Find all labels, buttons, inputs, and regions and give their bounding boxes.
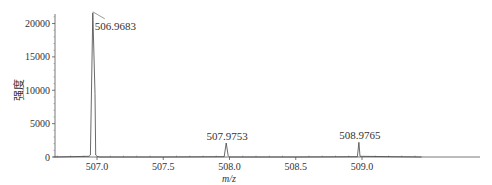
x-tick-label: 508.5 <box>285 161 308 172</box>
y-ticks: 05000100001500020000 <box>25 17 55 163</box>
peak-leader-line <box>93 12 105 19</box>
chart-svg: 05000100001500020000 507.0507.5508.0508.… <box>0 0 492 185</box>
x-tick-label: 509.0 <box>351 161 374 172</box>
y-tick-label: 20000 <box>25 18 50 29</box>
y-tick-label: 5000 <box>30 118 50 129</box>
y-tick-label: 10000 <box>25 85 50 96</box>
peak-labels: 506.9683507.9753508.9765 <box>93 12 381 142</box>
y-tick-label: 15000 <box>25 51 50 62</box>
x-tick-label: 507.0 <box>86 161 109 172</box>
peak-label: 507.9753 <box>207 130 249 142</box>
y-tick-label: 0 <box>45 152 50 163</box>
y-axis-label: 强度 <box>12 79 25 101</box>
mass-spectrum-chart: 05000100001500020000 507.0507.5508.0508.… <box>0 0 492 185</box>
peak-label: 506.9683 <box>95 20 137 32</box>
x-tick-label: 508.0 <box>218 161 241 172</box>
x-axis-label: m/z <box>222 173 236 184</box>
x-ticks: 507.0507.5508.0508.5509.0 <box>57 156 415 173</box>
peak-label: 508.9765 <box>339 129 381 141</box>
x-tick-label: 507.5 <box>152 161 175 172</box>
